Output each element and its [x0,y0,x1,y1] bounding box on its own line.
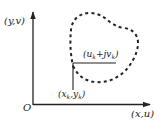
origin-label: O [23,102,31,113]
y-axis-label: (y,v) [4,15,25,26]
target-point-label: (uk+jvk) [83,49,119,60]
coordinate-diagram: (y,v) O (x,u) (uk+jvk) (xk,yk) [0,0,167,129]
source-point-label: (xk,yk) [58,89,86,100]
x-axis-label: (x,u) [131,108,154,119]
region-boundary-curve [70,13,138,82]
